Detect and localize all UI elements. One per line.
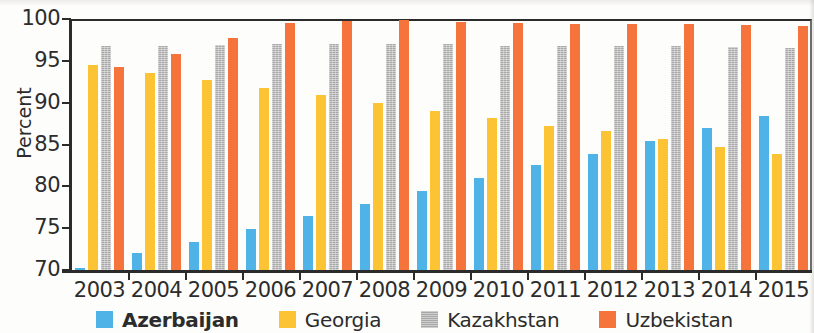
bar-kazakhstan-2013 xyxy=(671,46,681,270)
bar-azerbaijan-2009 xyxy=(417,191,427,270)
bar-georgia-2006 xyxy=(259,88,269,270)
chart-legend: AzerbaijanGeorgiaKazakhstanUzbekistan xyxy=(0,306,814,333)
bar-azerbaijan-2004 xyxy=(132,253,142,270)
y-axis-tick-label: 75 xyxy=(6,217,60,238)
legend-item-georgia[interactable]: Georgia xyxy=(279,308,381,332)
x-axis-tick-label: 2015 xyxy=(753,278,814,302)
x-axis-tick-label: 2011 xyxy=(525,278,587,302)
y-axis-tick xyxy=(62,144,71,146)
legend-item-uzbekistan[interactable]: Uzbekistan xyxy=(599,308,732,332)
bar-azerbaijan-2003 xyxy=(75,268,85,270)
x-axis-tick-label: 2009 xyxy=(411,278,473,302)
bar-georgia-2003 xyxy=(88,65,98,270)
bar-uzbekistan-2004 xyxy=(171,54,181,270)
bar-azerbaijan-2006 xyxy=(246,229,256,270)
legend-item-azerbaijan[interactable]: Azerbaijan xyxy=(96,308,239,332)
y-axis-tick xyxy=(62,60,71,62)
bar-uzbekistan-2009 xyxy=(456,22,466,270)
bar-azerbaijan-2013 xyxy=(645,141,655,270)
bar-uzbekistan-2015 xyxy=(798,26,808,270)
bar-georgia-2009 xyxy=(430,111,440,270)
bar-group xyxy=(698,19,755,270)
bar-group xyxy=(185,19,242,270)
x-axis-tick-label: 2010 xyxy=(468,278,530,302)
bar-group xyxy=(299,19,356,270)
legend-label: Kazakhstan xyxy=(447,308,559,332)
y-axis-labels: 707580859095100 xyxy=(0,0,60,333)
bar-azerbaijan-2008 xyxy=(360,204,370,270)
y-axis-tick xyxy=(62,185,71,187)
bar-georgia-2011 xyxy=(544,126,554,270)
y-axis-tick xyxy=(62,269,71,271)
bar-uzbekistan-2006 xyxy=(285,23,295,270)
x-axis-tick-label: 2007 xyxy=(297,278,359,302)
bar-kazakhstan-2009 xyxy=(443,44,453,270)
bar-azerbaijan-2007 xyxy=(303,216,313,270)
legend-swatch-icon xyxy=(96,311,113,328)
bar-uzbekistan-2013 xyxy=(684,24,694,270)
bar-kazakhstan-2007 xyxy=(329,44,339,270)
page-top-shadow xyxy=(0,0,814,6)
y-axis-tick xyxy=(62,227,71,229)
legend-swatch-icon xyxy=(421,311,438,328)
bar-uzbekistan-2008 xyxy=(399,20,409,270)
legend-swatch-icon xyxy=(279,311,296,328)
bar-azerbaijan-2010 xyxy=(474,178,484,270)
y-axis-tick-label: 85 xyxy=(6,134,60,155)
bar-georgia-2008 xyxy=(373,103,383,270)
y-axis-tick-label: 80 xyxy=(6,175,60,196)
x-axis-tick-label: 2008 xyxy=(354,278,416,302)
x-axis-tick-label: 2004 xyxy=(126,278,188,302)
bar-uzbekistan-2007 xyxy=(342,21,352,270)
y-axis-tick-label: 100 xyxy=(6,8,60,29)
bar-georgia-2012 xyxy=(601,131,611,270)
bar-kazakhstan-2003 xyxy=(101,46,111,270)
bar-uzbekistan-2012 xyxy=(627,24,637,270)
y-axis-tick-label: 95 xyxy=(6,50,60,71)
bar-georgia-2014 xyxy=(715,147,725,270)
bar-kazakhstan-2014 xyxy=(728,47,738,270)
bar-georgia-2005 xyxy=(202,80,212,270)
bar-azerbaijan-2012 xyxy=(588,154,598,270)
bar-uzbekistan-2005 xyxy=(228,38,238,270)
legend-swatch-icon xyxy=(599,311,616,328)
x-axis-tick-label: 2013 xyxy=(639,278,701,302)
legend-label: Azerbaijan xyxy=(122,308,239,332)
bar-kazakhstan-2015 xyxy=(785,48,795,270)
bar-kazakhstan-2010 xyxy=(500,46,510,270)
legend-label: Georgia xyxy=(305,308,381,332)
x-axis-tick-label: 2003 xyxy=(69,278,131,302)
y-axis-tick-label: 70 xyxy=(6,259,60,280)
bar-kazakhstan-2005 xyxy=(215,45,225,270)
x-axis-tick-label: 2012 xyxy=(582,278,644,302)
bar-kazakhstan-2004 xyxy=(158,46,168,270)
bar-uzbekistan-2014 xyxy=(741,25,751,270)
bar-georgia-2010 xyxy=(487,118,497,270)
bar-group xyxy=(413,19,470,270)
bar-uzbekistan-2003 xyxy=(114,67,124,270)
x-axis-tick-label: 2014 xyxy=(696,278,758,302)
bar-group xyxy=(356,19,413,270)
bar-group xyxy=(128,19,185,270)
bar-kazakhstan-2006 xyxy=(272,44,282,270)
bar-group xyxy=(584,19,641,270)
bar-azerbaijan-2015 xyxy=(759,116,769,270)
legend-label: Uzbekistan xyxy=(625,308,732,332)
legend-item-kazakhstan[interactable]: Kazakhstan xyxy=(421,308,559,332)
y-axis-tick xyxy=(62,102,71,104)
bar-azerbaijan-2011 xyxy=(531,165,541,270)
x-axis-tick-label: 2006 xyxy=(240,278,302,302)
bar-azerbaijan-2005 xyxy=(189,242,199,270)
bar-georgia-2004 xyxy=(145,73,155,270)
bar-kazakhstan-2008 xyxy=(386,44,396,270)
bar-georgia-2007 xyxy=(316,95,326,270)
bar-georgia-2013 xyxy=(658,139,668,270)
bar-group xyxy=(242,19,299,270)
bar-group xyxy=(470,19,527,270)
y-axis-tick-label: 90 xyxy=(6,92,60,113)
bar-group xyxy=(71,19,128,270)
bar-kazakhstan-2011 xyxy=(557,46,567,270)
bar-georgia-2015 xyxy=(772,154,782,270)
y-axis-tick xyxy=(62,18,71,20)
x-axis-tick-label: 2005 xyxy=(183,278,245,302)
